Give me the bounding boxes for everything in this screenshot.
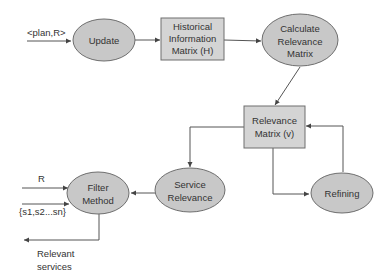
node-historical-line3: Matrix (H) bbox=[172, 45, 214, 56]
node-refining-label: Refining bbox=[325, 188, 360, 199]
node-relevance-matrix: Relevance Matrix (v) bbox=[244, 106, 305, 148]
edge-calculate-to-relevance-matrix bbox=[275, 67, 300, 105]
node-update-label: Update bbox=[89, 35, 120, 46]
label-output-line2: services bbox=[37, 261, 72, 272]
edge-refining-to-relevance-matrix bbox=[306, 126, 343, 172]
label-input-services: {s1,s2...sn} bbox=[19, 206, 66, 217]
node-service-relevance-line1: Service bbox=[174, 179, 206, 190]
label-input-plan: <plan,R> bbox=[27, 27, 66, 38]
node-calculate-relevance-matrix: Calculate Relevance Matrix bbox=[262, 14, 338, 66]
label-input-r: R bbox=[38, 173, 45, 184]
edge-historical-to-calculate bbox=[224, 40, 261, 41]
node-filter-line1: Filter bbox=[87, 182, 108, 193]
node-service-relevance: Service Relevance bbox=[155, 168, 225, 212]
node-filter-method: Filter Method bbox=[67, 172, 129, 214]
edge-relevance-matrix-to-refining bbox=[273, 148, 309, 194]
node-refining: Refining bbox=[311, 173, 373, 213]
node-calculate-line1: Calculate bbox=[280, 23, 320, 34]
node-calculate-line3: Matrix bbox=[287, 48, 313, 59]
edge-relevance-matrix-to-service-relevance bbox=[190, 127, 244, 167]
node-historical-information-matrix: Historical Information Matrix (H) bbox=[161, 18, 224, 60]
node-historical-line2: Information bbox=[169, 33, 217, 44]
edge-filter-to-output bbox=[24, 213, 99, 240]
node-historical-line1: Historical bbox=[173, 21, 212, 32]
node-filter-line2: Method bbox=[82, 195, 114, 206]
node-relevance-matrix-line2: Matrix (v) bbox=[255, 128, 295, 139]
node-update: Update bbox=[73, 19, 135, 61]
node-service-relevance-line2: Relevance bbox=[168, 192, 213, 203]
flow-diagram: <plan,R> R {s1,s2...sn} Relevant service… bbox=[0, 0, 392, 279]
label-output-line1: Relevant bbox=[37, 248, 75, 259]
node-relevance-matrix-line1: Relevance bbox=[252, 115, 297, 126]
node-calculate-line2: Relevance bbox=[278, 36, 323, 47]
